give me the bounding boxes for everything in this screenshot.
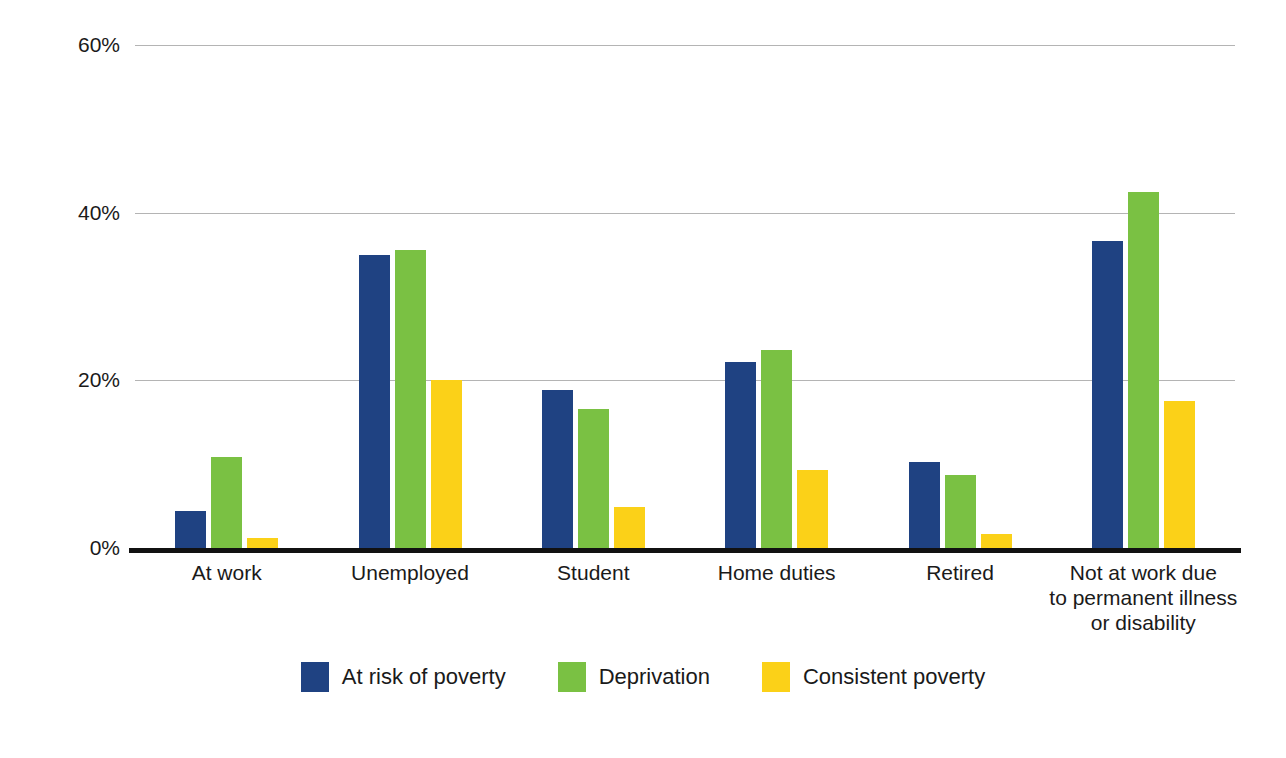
bar-chart: Percentage of people affected 0%20%40%60… [0, 0, 1286, 758]
bar-0-5 [1092, 241, 1123, 548]
legend-item-1[interactable]: Deprivation [558, 662, 710, 692]
legend-label: At risk of poverty [342, 664, 506, 690]
y-tick-label-20: 20% [10, 369, 120, 390]
bar-1-1 [395, 250, 426, 548]
gridline-20 [135, 380, 1235, 381]
legend-label: Deprivation [599, 664, 710, 690]
x-category-label-line: Not at work due [1034, 560, 1253, 585]
legend-swatch-icon [301, 662, 329, 692]
bar-1-5 [1128, 192, 1159, 548]
bar-0-4 [909, 462, 940, 548]
legend-swatch-icon [762, 662, 790, 692]
bar-2-0 [247, 538, 278, 548]
bar-0-1 [359, 255, 390, 548]
y-tick-label-0: 0% [10, 537, 120, 558]
x-axis-line [129, 548, 1241, 553]
gridline-40 [135, 213, 1235, 214]
legend-item-2[interactable]: Consistent poverty [762, 662, 985, 692]
bar-1-3 [761, 350, 792, 548]
bar-2-3 [797, 470, 828, 548]
bar-2-4 [981, 534, 1012, 548]
bar-1-2 [578, 409, 609, 548]
x-category-label-line: to permanent illness [1034, 585, 1253, 610]
legend-swatch-icon [558, 662, 586, 692]
x-category-label-5: Not at work dueto permanent illnessor di… [1034, 560, 1253, 635]
gridline-60 [135, 45, 1235, 46]
y-tick-label-40: 40% [10, 202, 120, 223]
bar-2-2 [614, 507, 645, 548]
x-category-label-line: or disability [1034, 610, 1253, 635]
bar-0-3 [725, 362, 756, 548]
bar-2-1 [431, 380, 462, 548]
bar-0-2 [542, 390, 573, 548]
bar-1-4 [945, 475, 976, 548]
bar-2-5 [1164, 401, 1195, 548]
bar-0-0 [175, 511, 206, 548]
plot-area [135, 45, 1235, 548]
legend-label: Consistent poverty [803, 664, 985, 690]
chart-legend: At risk of povertyDeprivationConsistent … [0, 662, 1286, 692]
y-tick-label-60: 60% [10, 34, 120, 55]
bar-1-0 [211, 457, 242, 548]
legend-item-0[interactable]: At risk of poverty [301, 662, 506, 692]
